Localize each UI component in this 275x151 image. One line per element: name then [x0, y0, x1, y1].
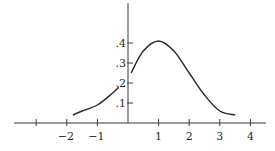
- x-tick-label: −1: [88, 130, 104, 143]
- x-tick-label: 1: [155, 130, 162, 143]
- y-tick-label: .4: [116, 37, 127, 50]
- y-tick-label: .1: [116, 97, 127, 110]
- y-axis: .1.2.3.4: [116, 3, 134, 123]
- y-tick-label: .3: [116, 57, 127, 70]
- x-axis: −2−11234: [14, 119, 266, 143]
- x-tick-label: 4: [247, 130, 254, 143]
- x-tick-label: 3: [216, 130, 223, 143]
- curve-right-segment: [131, 41, 235, 115]
- x-tick-label: −2: [58, 130, 74, 143]
- curve-group: [73, 41, 235, 115]
- x-tick-label: 2: [186, 130, 193, 143]
- curve-left-segment: [73, 87, 119, 115]
- bell-curve-chart: −2−11234 .1.2.3.4: [0, 0, 275, 151]
